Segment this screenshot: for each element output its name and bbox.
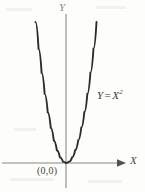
equation-lhs: Y xyxy=(97,89,104,101)
equation-exponent: 2 xyxy=(119,88,123,96)
parabola-figure: Y X Y=X2 (0,0) xyxy=(0,0,145,192)
plot-canvas xyxy=(0,0,145,192)
origin-label: (0,0) xyxy=(37,166,57,176)
equation-label: Y=X2 xyxy=(97,89,123,101)
y-axis-label: Y xyxy=(59,2,65,13)
x-axis-arrowhead-icon xyxy=(117,159,126,167)
x-axis-label: X xyxy=(130,155,137,166)
equation-operator: = xyxy=(104,89,113,101)
